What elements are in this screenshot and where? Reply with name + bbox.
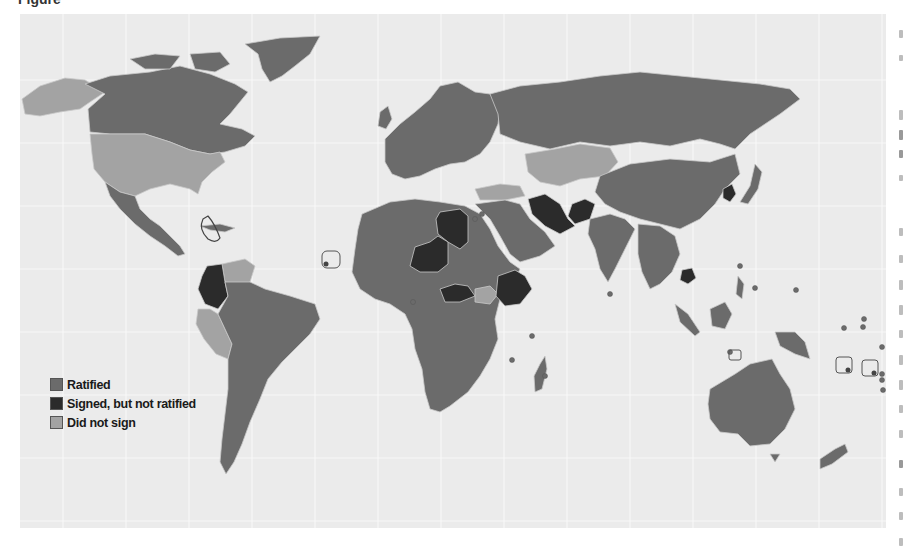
region-greenland <box>245 36 320 82</box>
region-southeast-asia <box>638 224 680 289</box>
legend-item-signed-not-ratified: Signed, but not ratified <box>50 395 196 412</box>
world-map-panel: Ratified Signed, but not ratified Did no… <box>20 14 886 528</box>
region-europe <box>385 82 500 179</box>
page-edge-bleed <box>897 0 909 549</box>
region-india <box>588 214 635 282</box>
region-colombia <box>198 264 228 309</box>
region-russia <box>490 72 800 149</box>
region-sumatra <box>675 304 700 336</box>
region-japan <box>740 164 762 204</box>
legend-swatch-signed-not-ratified <box>50 397 63 410</box>
legend-label-ratified: Ratified <box>67 378 110 392</box>
region-philippines <box>736 276 744 299</box>
region-new-guinea <box>775 332 810 359</box>
region-new-zealand <box>820 444 848 469</box>
region-australia <box>708 359 795 446</box>
legend-swatch-did-not-sign <box>50 416 63 429</box>
map-legend: Ratified Signed, but not ratified Did no… <box>50 376 196 433</box>
legend-label-signed-not-ratified: Signed, but not ratified <box>67 397 196 411</box>
legend-item-ratified: Ratified <box>50 376 196 393</box>
region-africa <box>352 199 520 412</box>
legend-item-did-not-sign: Did not sign <box>50 414 196 431</box>
region-uk <box>378 106 392 129</box>
figure-title-fragment: Figure <box>18 0 61 7</box>
world-map <box>20 14 886 528</box>
region-turkey <box>475 184 525 200</box>
legend-swatch-ratified <box>50 378 63 391</box>
legend-label-did-not-sign: Did not sign <box>67 416 136 430</box>
region-brazil <box>218 282 320 474</box>
region-ethiopia <box>496 270 532 306</box>
region-mexico <box>105 182 185 256</box>
region-borneo <box>710 302 732 329</box>
